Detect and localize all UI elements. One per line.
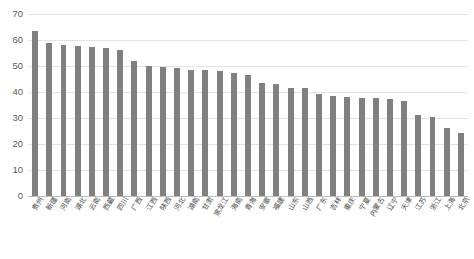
plot-area: 010203040506070	[28, 14, 468, 196]
y-tick-label: 10	[12, 165, 23, 175]
y-tick-label: 70	[12, 9, 23, 19]
x-tick-label: 重庆	[343, 196, 356, 212]
x-tick-label: 吉林	[329, 196, 342, 212]
bar	[202, 70, 208, 196]
x-tick-label: 辽宁	[386, 196, 399, 212]
x-tick-label: 西藏	[102, 196, 115, 212]
x-tick-label: 广东	[315, 196, 328, 212]
x-tick-label: 河北	[173, 196, 186, 212]
y-tick-label: 50	[12, 61, 23, 71]
bar	[330, 96, 336, 196]
bar	[302, 88, 308, 196]
x-tick-label: 新疆	[45, 196, 58, 212]
bar	[46, 43, 52, 196]
x-tick-label: 北京	[457, 196, 470, 212]
x-tick-label: 山西	[301, 196, 314, 212]
bar	[61, 45, 67, 196]
x-tick-label: 贵州	[31, 196, 44, 212]
x-tick-label: 安徽	[258, 196, 271, 212]
x-tick-label: 甘肃	[201, 196, 214, 212]
x-tick-label: 宁夏	[358, 196, 371, 212]
x-axis-labels: 贵州新疆河南湖北云南西藏四川广西江西陕西河北湖南甘肃黑龙江海南青海安徽福建山东山…	[28, 196, 468, 259]
x-tick-label: 江苏	[414, 196, 427, 212]
bar	[387, 99, 393, 197]
y-tick-label: 20	[12, 139, 23, 149]
y-tick-label: 60	[12, 35, 23, 45]
x-tick-label: 青海	[244, 196, 257, 212]
bar	[217, 71, 223, 196]
bar	[174, 68, 180, 196]
bar	[146, 66, 152, 196]
x-tick-label: 福建	[272, 196, 285, 212]
bars-container	[28, 14, 468, 196]
x-tick-label: 四川	[116, 196, 129, 212]
bar	[430, 117, 436, 196]
x-tick-label: 海南	[230, 196, 243, 212]
bar	[160, 67, 166, 196]
x-tick-label: 江西	[145, 196, 158, 212]
bar	[359, 98, 365, 196]
y-tick-label: 40	[12, 87, 23, 97]
bar	[288, 88, 294, 196]
x-tick-label: 黑龙江	[212, 196, 229, 218]
bar	[316, 94, 322, 196]
bar-chart: 010203040506070 贵州新疆河南湖北云南西藏四川广西江西陕西河北湖南…	[0, 0, 474, 259]
y-tick-label: 0	[18, 191, 23, 201]
bar	[117, 50, 123, 196]
y-tick-label: 30	[12, 113, 23, 123]
bar	[444, 128, 450, 196]
bar	[75, 46, 81, 196]
bar	[231, 73, 237, 196]
bar	[415, 115, 421, 196]
bar	[245, 75, 251, 196]
bar	[131, 61, 137, 196]
x-tick-label: 广西	[130, 196, 143, 212]
x-tick-label: 湖北	[74, 196, 87, 212]
bar	[32, 31, 38, 196]
bar	[273, 84, 279, 196]
x-tick-label: 云南	[88, 196, 101, 212]
x-tick-label: 湖南	[187, 196, 200, 212]
bar	[401, 101, 407, 196]
bar	[373, 98, 379, 196]
x-tick-label: 天津	[400, 196, 413, 212]
x-tick-label: 陕西	[159, 196, 172, 212]
x-tick-label: 上海	[443, 196, 456, 212]
bar	[259, 83, 265, 196]
x-tick-label: 山东	[287, 196, 300, 212]
bar	[103, 48, 109, 196]
bar	[344, 97, 350, 196]
x-tick-label: 河南	[59, 196, 72, 212]
bar	[89, 47, 95, 196]
x-tick-label: 浙江	[429, 196, 442, 212]
bar	[458, 133, 464, 196]
bar	[188, 70, 194, 196]
